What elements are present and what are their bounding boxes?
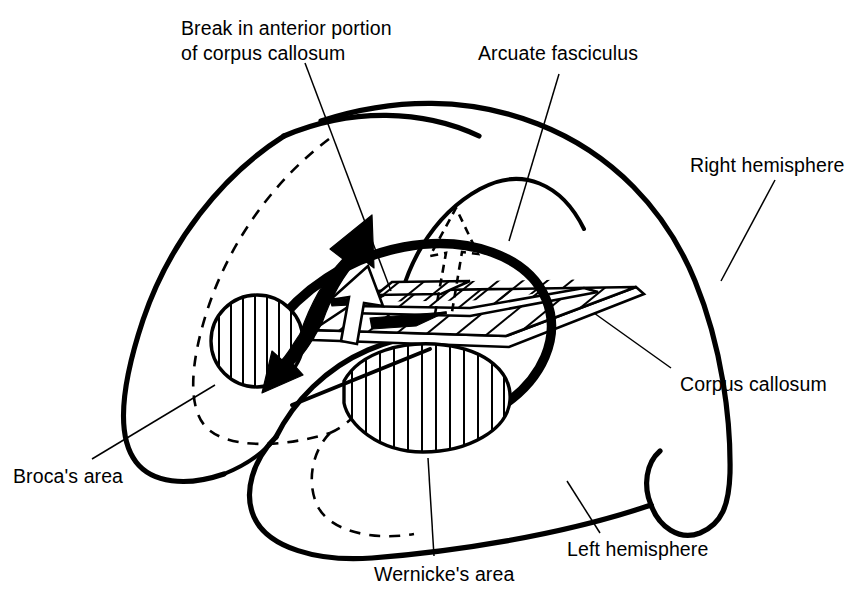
brain-diagram-canvas <box>0 0 846 591</box>
label-break-line1: Break in anterior portion <box>181 17 392 39</box>
label-break-line2: of corpus callosum <box>181 42 345 64</box>
label-left-hemisphere: Left hemisphere <box>567 537 708 562</box>
label-break-in-corpus-callosum: Break in anterior portionof corpus callo… <box>181 16 392 66</box>
label-right-hemisphere: Right hemisphere <box>690 153 844 178</box>
label-arcuate-fasciculus: Arcuate fasciculus <box>478 41 638 66</box>
label-brocas-area: Broca's area <box>13 464 123 489</box>
brain-diagram-figure: Break in anterior portionof corpus callo… <box>0 0 846 591</box>
label-corpus-callosum: Corpus callosum <box>680 372 827 397</box>
label-wernickes-area: Wernicke's area <box>374 562 514 587</box>
